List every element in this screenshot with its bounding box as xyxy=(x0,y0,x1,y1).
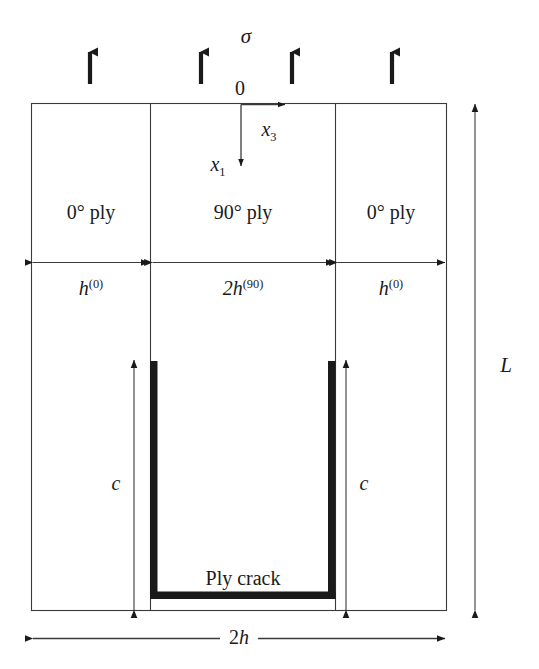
ply-crack-bottom-arm xyxy=(150,592,336,600)
ply-label-left: 0° ply xyxy=(67,202,116,222)
axis-x3-label: x3 xyxy=(261,119,276,143)
origin-label: 0 xyxy=(235,78,245,98)
ply-crack-label: Ply crack xyxy=(206,568,281,588)
ply-crack-figure: σ 0 x3 x1 0° ply 90° ply 0° ply h(0) 2h(… xyxy=(0,0,539,669)
thickness-label-left-base: h xyxy=(79,277,89,299)
overall-width-prefix: 2 xyxy=(229,626,239,648)
ply-crack-right-arm xyxy=(328,361,336,599)
thickness-label-left-sup: (0) xyxy=(89,277,103,291)
thickness-label-right: h(0) xyxy=(379,278,403,299)
thickness-label-right-sup: (0) xyxy=(389,277,403,291)
axis-x3-subscript: 3 xyxy=(270,130,276,144)
axis-x3-base: x xyxy=(261,118,270,140)
overall-width-label: 2h xyxy=(220,627,258,647)
applied-stress-label: σ xyxy=(241,26,251,47)
axis-x1-base: x xyxy=(210,153,219,175)
overall-length-label: L xyxy=(500,355,512,376)
axis-x1-label: x1 xyxy=(210,154,225,178)
crack-depth-label-right: c xyxy=(360,473,369,493)
overall-width-base: h xyxy=(239,626,249,648)
ply-crack-shape xyxy=(150,361,336,599)
ply-label-middle: 90° ply xyxy=(214,202,273,222)
axis-x1-subscript: 1 xyxy=(219,165,225,179)
laminate-outline xyxy=(32,104,447,611)
thickness-label-middle: 2h(90) xyxy=(223,278,264,299)
ply-crack-left-arm xyxy=(150,361,158,599)
thickness-label-left: h(0) xyxy=(79,278,103,299)
thickness-label-right-base: h xyxy=(379,277,389,299)
thickness-label-middle-sup: (90) xyxy=(243,277,264,291)
ply-label-right: 0° ply xyxy=(367,202,416,222)
thickness-label-middle-base: 2h xyxy=(223,277,243,299)
crack-depth-label-left: c xyxy=(112,473,121,493)
